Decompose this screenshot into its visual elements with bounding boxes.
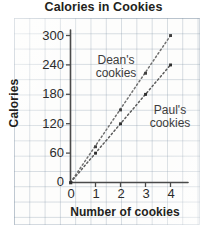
data-point-deans-2: [119, 109, 122, 112]
x-tick-label-1: 1: [87, 186, 105, 201]
y-tick-label-60: 60: [30, 145, 64, 160]
series-annotation-pauls: Paul's cookies: [142, 104, 198, 131]
y-tick-label-300: 300: [30, 28, 64, 43]
series-annotation-pauls-line1: Paul's: [142, 104, 198, 117]
y-tick-label-180: 180: [30, 86, 64, 101]
series-annotation-deans: Dean's cookies: [86, 54, 146, 81]
series-annotation-deans-line2: cookies: [86, 67, 146, 80]
y-tick-label-240: 240: [30, 57, 64, 72]
chart-figure: Calories in Cookies: [0, 0, 207, 232]
x-axis-title: Number of cookies: [45, 205, 205, 219]
x-tick-label-0: 0: [62, 186, 80, 201]
y-tick-label-120: 120: [30, 116, 64, 131]
plot-area: 300 240 180 120 60 0 0 1 2 3 4 Calories …: [0, 0, 207, 232]
y-tick-label-0: 0: [30, 174, 64, 189]
data-point-pauls-2: [119, 122, 122, 125]
series-annotation-deans-line1: Dean's: [86, 54, 146, 67]
y-axis-title: Calories: [7, 70, 21, 136]
x-tick-label-3: 3: [137, 186, 155, 201]
data-point-deans-4: [169, 34, 172, 37]
data-point-pauls-3: [144, 93, 147, 96]
data-point-origin: [69, 181, 72, 184]
data-point-pauls-1: [94, 152, 97, 155]
data-point-pauls-4: [169, 64, 172, 67]
data-point-deans-1: [94, 145, 97, 148]
series-annotation-pauls-line2: cookies: [142, 117, 198, 130]
x-tick-label-2: 2: [112, 186, 130, 201]
x-tick-label-4: 4: [162, 186, 180, 201]
